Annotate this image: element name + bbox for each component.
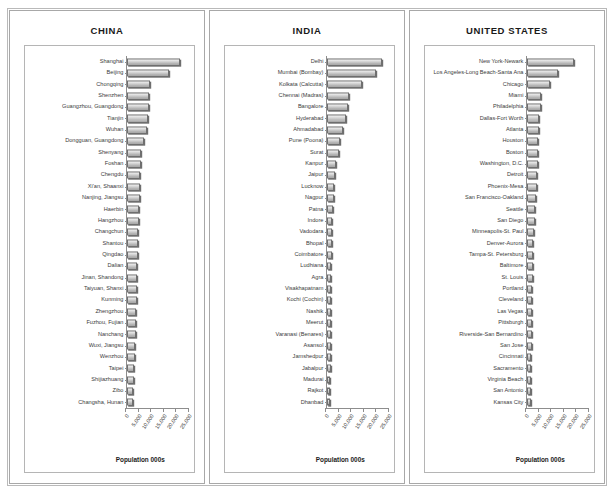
bar bbox=[127, 240, 137, 247]
bar-row: Shenzhen bbox=[31, 90, 188, 101]
category-label: Kanpur bbox=[231, 161, 326, 167]
bar-track bbox=[526, 79, 588, 90]
category-label: Kunming bbox=[31, 297, 126, 303]
bar bbox=[127, 399, 133, 406]
bar-row: Indore bbox=[231, 215, 388, 226]
bar-track bbox=[326, 238, 388, 249]
bar-track bbox=[326, 363, 388, 374]
bar-track bbox=[126, 215, 188, 226]
bar bbox=[527, 183, 536, 190]
bar-track bbox=[526, 351, 588, 362]
bar bbox=[527, 194, 535, 201]
category-label: Surat bbox=[231, 150, 326, 156]
category-label: New York-Newark bbox=[431, 59, 526, 65]
bar bbox=[127, 285, 136, 292]
x-tick-label: 15,000 bbox=[353, 413, 367, 430]
bar-row: Miami bbox=[431, 90, 588, 101]
category-label: Dalian bbox=[31, 263, 126, 269]
category-label: Virginia Beach bbox=[431, 377, 526, 383]
bar-row: Dongguan, Guangdong bbox=[31, 136, 188, 147]
bar bbox=[127, 354, 134, 361]
category-label: Fuzhou, Fujian bbox=[31, 320, 126, 326]
bar bbox=[327, 388, 330, 395]
category-label: Dhanbad bbox=[231, 400, 326, 406]
x-axis-title: Population 000s bbox=[93, 456, 188, 463]
x-axis-ticks bbox=[325, 408, 388, 412]
x-axis-ticks bbox=[525, 408, 588, 412]
bar bbox=[127, 70, 169, 77]
bar-row: Surat bbox=[231, 147, 388, 158]
bar bbox=[327, 126, 343, 133]
bar-track bbox=[126, 238, 188, 249]
x-tick bbox=[163, 408, 164, 412]
bar-row: Tampa-St. Petersburg bbox=[431, 249, 588, 260]
x-tick bbox=[125, 408, 126, 412]
category-label: Las Vegas bbox=[431, 309, 526, 315]
category-label: Hangzhou bbox=[31, 218, 126, 224]
bar-row: Jinan, Shandong bbox=[31, 272, 188, 283]
bar-track bbox=[326, 272, 388, 283]
bar-row: Kansas City bbox=[431, 397, 588, 408]
bar bbox=[327, 160, 335, 167]
category-label: Chicago bbox=[431, 82, 526, 88]
plot-box-china: ShanghaiBeijingChongqingShenzhenGuangzho… bbox=[24, 45, 195, 473]
bar bbox=[527, 70, 558, 77]
x-tick-label: 0 bbox=[123, 413, 130, 419]
category-label: San Antonio bbox=[431, 388, 526, 394]
category-label: Boston bbox=[431, 150, 526, 156]
bar bbox=[127, 251, 137, 258]
category-label: Kolkata (Calcutta) bbox=[231, 82, 326, 88]
bar-row: New York-Newark bbox=[431, 56, 588, 67]
bar-row: Nanjing, Jiangsu bbox=[31, 192, 188, 203]
bar-track bbox=[526, 204, 588, 215]
bar-row: Shanghai bbox=[31, 56, 188, 67]
bar bbox=[527, 251, 533, 258]
category-label: Miami bbox=[431, 93, 526, 99]
bar-track bbox=[526, 295, 588, 306]
bar-track bbox=[126, 67, 188, 78]
x-tick bbox=[363, 408, 364, 412]
bar-row: Seattle bbox=[431, 204, 588, 215]
category-label: Shantou bbox=[31, 241, 126, 247]
bar-track bbox=[326, 260, 388, 271]
bar-chart-united-states: New York-NewarkLos Angeles-Long Beach-Sa… bbox=[431, 52, 588, 466]
bar-track bbox=[326, 136, 388, 147]
bar bbox=[527, 285, 532, 292]
category-label: Cincinnati bbox=[431, 354, 526, 360]
bar-track bbox=[526, 170, 588, 181]
bar bbox=[327, 229, 332, 236]
bar-track bbox=[126, 340, 188, 351]
bar-track bbox=[326, 295, 388, 306]
bar bbox=[127, 376, 133, 383]
bar bbox=[327, 70, 375, 77]
chart-title-united-states: UNITED STATES bbox=[410, 25, 604, 36]
bar-track bbox=[126, 283, 188, 294]
category-label: Los Angeles-Long Beach-Santa Ana bbox=[431, 70, 526, 76]
bar-row: Varanasi (Benares) bbox=[231, 329, 388, 340]
bar-row: Philadelphia bbox=[431, 101, 588, 112]
bar-track bbox=[326, 90, 388, 101]
bar-row: Dallas-Fort Worth bbox=[431, 113, 588, 124]
category-label: Taipei bbox=[31, 366, 126, 372]
category-label: Chongqing bbox=[31, 82, 126, 88]
bar-track bbox=[126, 90, 188, 101]
category-label: Guangzhou, Guangdong bbox=[31, 104, 126, 110]
category-label: Tampa-St. Petersburg bbox=[431, 252, 526, 258]
bar bbox=[327, 354, 330, 361]
bar-row: Mumbai (Bombay) bbox=[231, 67, 388, 78]
x-tick bbox=[550, 408, 551, 412]
category-label: Indore bbox=[231, 218, 326, 224]
bar-row: Shenyang bbox=[31, 147, 188, 158]
bar-track bbox=[126, 79, 188, 90]
bar bbox=[327, 274, 331, 281]
bar-track bbox=[326, 204, 388, 215]
bar-row: Detroit bbox=[431, 170, 588, 181]
bar bbox=[527, 92, 541, 99]
x-axis-tick-labels: 05,00010,00015,00020,00025,000 bbox=[525, 413, 588, 447]
bar-track bbox=[326, 113, 388, 124]
bar bbox=[127, 274, 137, 281]
bar-track bbox=[326, 226, 388, 237]
bar-row: Agra bbox=[231, 272, 388, 283]
category-label: San Jose bbox=[431, 343, 526, 349]
category-label: Kansas City bbox=[431, 400, 526, 406]
